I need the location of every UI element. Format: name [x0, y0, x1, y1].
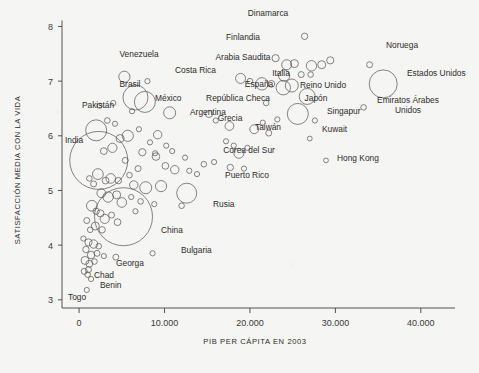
- x-tick-label: 10.000: [151, 318, 179, 328]
- point-label-benin: Benin: [100, 280, 122, 290]
- point-label-emiratos-rabes: Emiratos Árabes: [377, 95, 439, 105]
- bubble-point-argentina[interactable]: [164, 107, 176, 119]
- bubble-point: [81, 236, 86, 241]
- point-label-hong-kong: Hong Kong: [337, 153, 379, 163]
- y-axis-title: SATISFACCIÓN MEDIA CON LA VIDA: [13, 95, 22, 244]
- bubble-point-emiratos-rabes[interactable]: [361, 105, 367, 111]
- bubble-point: [308, 72, 314, 78]
- bubble-point: [140, 182, 152, 194]
- bubble-point: [211, 159, 216, 164]
- y-tick-label: 3: [48, 295, 53, 305]
- y-tick-label: 8: [48, 22, 53, 32]
- bubble-point-italia[interactable]: [276, 80, 290, 94]
- bubble-point-singapur[interactable]: [312, 118, 317, 123]
- bubble-point: [164, 143, 169, 148]
- bubble-point-kuwait[interactable]: [307, 136, 312, 141]
- plot-area: 345678010.00020.00030.00040.000 Dinamarc…: [0, 0, 479, 373]
- bubble-point: [133, 209, 138, 214]
- point-label-dinamarca: Dinamarca: [248, 8, 289, 18]
- y-tick-label: 5: [48, 186, 53, 196]
- bubble-point: [83, 246, 89, 252]
- point-label-italia: Italia: [272, 68, 290, 78]
- point-label-m-xico: México: [155, 93, 182, 103]
- bubble-point: [87, 176, 93, 182]
- bubble-point: [127, 172, 133, 178]
- bubble-point-rusia[interactable]: [177, 183, 197, 203]
- bubble-point: [114, 219, 121, 226]
- bubble-point-m-xico[interactable]: [134, 91, 155, 112]
- x-axis-title: PIB PER CÁPITA EN 2003: [203, 337, 306, 346]
- bubble-point: [139, 149, 146, 156]
- x-tick-label: 20.000: [236, 318, 264, 328]
- bubble-point: [84, 218, 90, 224]
- bubble-point: [171, 165, 179, 173]
- bubble-point-noruega[interactable]: [367, 62, 373, 68]
- bubble-point: [194, 171, 199, 176]
- bubble-point: [153, 131, 161, 139]
- bubble-point-jap-n[interactable]: [287, 103, 308, 124]
- bubble-point: [94, 250, 100, 256]
- point-label-brasil: Brasil: [120, 79, 141, 89]
- point-labels: DinamarcaFinlandiaNoruegaVenezuelaArabia…: [65, 8, 466, 302]
- bubble-point-china[interactable]: [95, 188, 153, 246]
- bubble-point: [101, 253, 106, 258]
- bubble-point: [104, 118, 110, 124]
- bubble-point: [103, 192, 113, 202]
- bubble-point: [298, 72, 304, 78]
- bubble-point: [156, 180, 167, 191]
- point-label-noruega: Noruega: [386, 40, 418, 50]
- bubble-point: [327, 57, 334, 64]
- bubble-point: [106, 174, 116, 184]
- point-label-reino-unido: Reino Unido: [300, 80, 346, 90]
- point-label-unidos: Unidos: [395, 105, 421, 115]
- bubble-point: [100, 214, 109, 223]
- point-label-corea-del-sur: Corea del Sur: [223, 145, 275, 155]
- bubble-point: [113, 191, 121, 199]
- bubble-point-pakist-n[interactable]: [86, 120, 107, 141]
- point-label-taiw-n: Taiwán: [255, 122, 281, 132]
- bubble-point: [179, 203, 185, 209]
- bubble-point-costa-rica[interactable]: [145, 79, 150, 84]
- point-label-espa-a: España: [245, 79, 274, 89]
- bubble-chart: 345678010.00020.00030.00040.000 Dinamarc…: [0, 0, 479, 373]
- point-label-arabia-saudita: Arabia Saudita: [216, 52, 271, 62]
- point-label-rep-blica-checa: República Checa: [206, 93, 270, 103]
- point-label-jap-n: Japón: [305, 93, 328, 103]
- bubble-point: [91, 181, 97, 187]
- x-tick-label: 0: [77, 318, 82, 328]
- bubble-point: [306, 61, 316, 71]
- bubble-point: [152, 153, 160, 161]
- bubble-point: [115, 177, 121, 183]
- point-label-rusia: Rusia: [213, 199, 235, 209]
- x-tick-label: 30.000: [322, 318, 350, 328]
- bubble-point: [152, 202, 157, 207]
- bubble-point: [187, 168, 192, 173]
- bubble-point-dinamarca[interactable]: [301, 33, 307, 39]
- bubble-point: [129, 194, 134, 199]
- bubble-point: [97, 210, 104, 217]
- bubble-point: [112, 121, 117, 126]
- bubble-point: [318, 61, 326, 69]
- bubble-point: [201, 161, 207, 167]
- y-tick-label: 4: [48, 241, 53, 251]
- point-label-venezuela: Venezuela: [119, 49, 158, 59]
- bubble-point-estados-unidos[interactable]: [369, 70, 397, 98]
- bubble-point: [117, 198, 127, 208]
- point-label-costa-rica: Costa Rica: [175, 65, 216, 75]
- bubble-point: [285, 79, 298, 92]
- bubble-point-bulgaria[interactable]: [150, 251, 155, 256]
- point-label-georga: Georga: [116, 258, 144, 268]
- bubble-point: [87, 227, 93, 233]
- point-label-china: China: [161, 225, 183, 235]
- bubble-point-hong-kong[interactable]: [324, 158, 329, 163]
- bubble-point: [130, 181, 138, 189]
- bubble-point: [182, 155, 187, 160]
- point-label-finlandia: Finlandia: [226, 32, 260, 42]
- bubble-point-benin[interactable]: [88, 276, 93, 281]
- point-label-togo: Togo: [68, 292, 87, 302]
- bubble-point-finlandia[interactable]: [272, 55, 279, 62]
- point-label-india: India: [65, 135, 84, 145]
- x-tick-label: 40.000: [407, 318, 435, 328]
- bubble-point: [92, 259, 98, 265]
- bubble-point: [138, 199, 144, 205]
